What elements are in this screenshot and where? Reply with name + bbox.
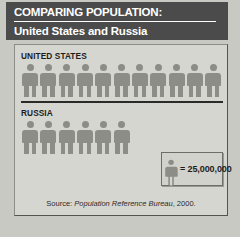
page-title: COMPARING POPULATION: <box>14 5 228 19</box>
legend-value-label: = 25,000,000 <box>180 164 232 174</box>
infographic-header: COMPARING POPULATION: United States and … <box>6 2 228 40</box>
person-icon <box>186 64 204 97</box>
person-icon <box>112 121 130 154</box>
population-infographic: COMPARING POPULATION: United States and … <box>0 0 240 237</box>
person-icon <box>204 64 222 97</box>
person-icon <box>94 121 112 154</box>
person-icon <box>21 64 39 97</box>
figure-row-russia <box>21 120 223 154</box>
person-icon <box>149 64 167 97</box>
source-note: Source: Population Reference Bureau, 200… <box>15 199 227 208</box>
page-subtitle: United States and Russia <box>14 24 228 38</box>
person-icon <box>94 64 112 97</box>
person-icon <box>21 121 39 154</box>
person-icon <box>58 64 76 97</box>
country-label-united-states: UNITED STATES <box>21 51 207 61</box>
legend-box: = 25,000,000 <box>161 152 223 186</box>
source-suffix: , 2000. <box>173 199 196 208</box>
country-label-russia: RUSSIA <box>21 108 207 118</box>
person-icon <box>131 64 149 97</box>
title-divider <box>14 21 216 22</box>
person-icon <box>76 121 94 154</box>
pictogram-section-russia: RUSSIA <box>21 108 223 154</box>
figure-row-united-states <box>21 63 223 97</box>
person-icon <box>39 64 57 97</box>
person-icon <box>39 121 57 154</box>
pictogram-section-united-states: UNITED STATES <box>21 51 223 97</box>
source-publication: Population Reference Bureau <box>74 199 172 208</box>
person-icon <box>76 64 94 97</box>
source-prefix: Source: <box>46 199 72 208</box>
person-icon <box>58 121 76 154</box>
chart-panel: UNITED STATES RUSSIA = 25,000,000 Source… <box>14 44 228 216</box>
section-divider <box>21 101 223 103</box>
person-icon <box>166 160 176 179</box>
person-icon <box>167 64 185 97</box>
person-icon <box>112 64 130 97</box>
